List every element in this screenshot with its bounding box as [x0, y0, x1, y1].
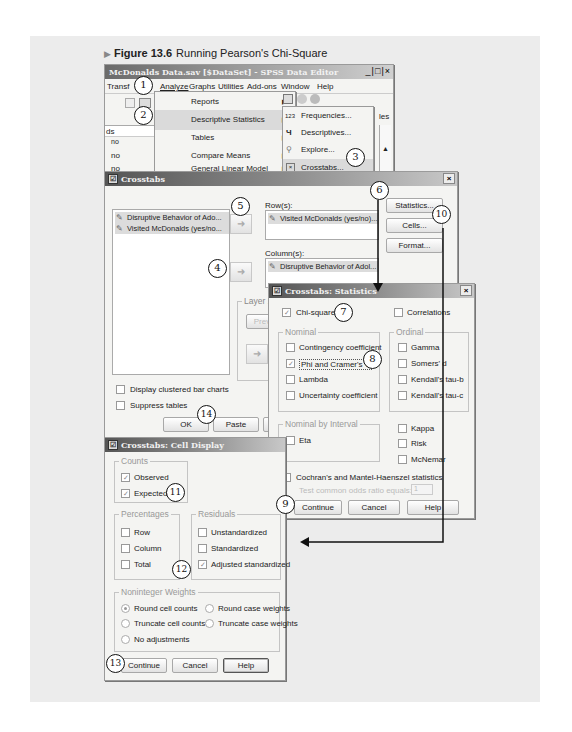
minimize-button[interactable]: _ [366, 66, 372, 76]
figure-label: Figure 13.6 [114, 47, 172, 59]
cell[interactable]: no [111, 151, 120, 160]
mcnemar-checkbox[interactable] [398, 455, 407, 464]
clustered-bar-charts-label: Display clustered bar charts [130, 385, 229, 394]
paste-button[interactable]: Paste [213, 417, 259, 432]
callout-5: 5 [231, 197, 250, 216]
row-percent-checkbox[interactable] [121, 528, 130, 537]
toolbar-icon-4[interactable] [297, 94, 307, 104]
gamma-checkbox[interactable] [398, 343, 407, 352]
uncertainty-coefficient-label: Uncertainty coefficient [299, 391, 378, 400]
test-odds-ratio-input[interactable]: 1 [411, 484, 433, 495]
continue-button[interactable]: Continue [121, 658, 167, 673]
menu-item-tables[interactable]: Tables▶ [155, 128, 295, 148]
columns-label: Column(s): [265, 249, 304, 258]
dialog-icon: ☑ [108, 174, 118, 184]
total-percent-label: Total [134, 560, 151, 569]
menu-addons[interactable]: Add-ons [247, 82, 277, 91]
risk-checkbox[interactable] [398, 439, 407, 448]
dialog-icon: ☑ [108, 440, 118, 450]
arrow-right-icon: ➜ [237, 266, 245, 277]
kendalls-tau-c-checkbox[interactable] [398, 391, 407, 400]
rows-list[interactable]: ✎Visited McDonalds (yes/no)... [265, 210, 379, 240]
statistics-dialog: ☑ Crosstabs: Statistics × ✓ Chi-square C… [268, 283, 475, 519]
callout-3: 3 [346, 148, 365, 167]
cancel-button[interactable]: Cancel [172, 658, 218, 673]
expected-checkbox[interactable]: ✓ [121, 489, 130, 498]
observed-checkbox[interactable]: ✓ [121, 473, 130, 482]
menu-transform[interactable]: Transf [107, 82, 129, 91]
cochran-mantel-haenszel-label: Cochran's and Mantel-Haenszel statistics [296, 473, 442, 482]
callout-14: 14 [197, 405, 216, 424]
format-button[interactable]: Format... [386, 238, 443, 253]
pencil-icon: ✎ [269, 214, 278, 223]
no-adjustments-radio[interactable] [121, 635, 130, 644]
menu-item-descriptives[interactable]: ЧDescriptives... [283, 125, 373, 141]
move-to-rows-button[interactable]: ➜ [230, 214, 252, 234]
list-item[interactable]: ✎Disruptive Behavior of Ado... [115, 212, 229, 223]
cell-display-dialog: ☑ Crosstabs: Cell Display Counts ✓ Obser… [104, 437, 286, 681]
figure-caption: ▶Figure 13.6Running Pearson's Chi-Square [104, 47, 327, 59]
round-cell-counts-radio[interactable] [121, 604, 130, 613]
clustered-bar-charts-checkbox[interactable] [116, 385, 125, 394]
menu-analyze[interactable]: Analyze [160, 82, 188, 91]
lambda-checkbox[interactable] [286, 375, 295, 384]
correlations-checkbox[interactable] [394, 308, 403, 317]
maximize-button[interactable]: □ [375, 66, 381, 76]
eta-checkbox[interactable] [286, 436, 295, 445]
figure-title: Running Pearson's Chi-Square [176, 47, 327, 59]
toolbar-icon-5[interactable] [310, 94, 320, 104]
adjusted-standardized-checkbox[interactable]: ✓ [198, 560, 207, 569]
caption-triangle-icon: ▶ [104, 49, 111, 59]
suppress-tables-label: Suppress tables [130, 401, 187, 410]
uncertainty-coefficient-checkbox[interactable] [286, 391, 295, 400]
chi-square-checkbox[interactable]: ✓ [282, 308, 291, 317]
adjusted-standardized-label: Adjusted standardized [211, 560, 290, 569]
menu-utilities[interactable]: Utilities [218, 82, 244, 91]
continue-button[interactable]: Continue [294, 500, 342, 515]
close-button[interactable]: × [385, 66, 391, 76]
callout-11: 11 [166, 483, 185, 502]
menu-graphs[interactable]: Graphs [189, 82, 215, 91]
truncate-cell-counts-radio[interactable] [121, 619, 130, 628]
move-to-columns-button[interactable]: ➜ [230, 262, 252, 282]
window-controls: _|□|× [366, 66, 391, 76]
menu-window[interactable]: Window [281, 82, 309, 91]
pencil-icon: ✎ [116, 213, 125, 222]
close-button[interactable]: × [460, 285, 472, 296]
cell-display-titlebar: ☑ Crosstabs: Cell Display [105, 438, 285, 452]
callout-12: 12 [172, 560, 191, 579]
list-item[interactable]: ✎Disruptive Behavior of Adol... [268, 261, 378, 272]
column-percent-checkbox[interactable] [121, 544, 130, 553]
kappa-checkbox[interactable] [398, 424, 407, 433]
somers-d-checkbox[interactable] [398, 359, 407, 368]
phi-cramers-v-checkbox[interactable]: ✓ [286, 359, 295, 368]
menu-item-frequencies[interactable]: 123Frequencies... [283, 108, 373, 124]
source-variable-list[interactable]: ✎Disruptive Behavior of Ado... ✎Visited … [112, 209, 230, 375]
menu-help[interactable]: Help [317, 82, 333, 91]
round-case-weights-radio[interactable] [205, 604, 214, 613]
help-button[interactable]: Help [407, 500, 459, 515]
toolbar-icon-3[interactable] [283, 94, 293, 104]
standardized-checkbox[interactable] [198, 544, 207, 553]
move-to-layer-button[interactable]: ➜ [246, 344, 268, 364]
truncate-case-weights-radio[interactable] [205, 619, 214, 628]
total-percent-checkbox[interactable] [121, 560, 130, 569]
risk-label: Risk [411, 439, 427, 448]
arrow-right-icon: ➜ [237, 218, 245, 229]
unstandardized-checkbox[interactable] [198, 528, 207, 537]
list-item[interactable]: ✎Visited McDonalds (yes/no)... [268, 213, 378, 224]
close-button[interactable]: × [443, 173, 455, 184]
help-button[interactable]: Help [223, 658, 269, 673]
toolbar-icon-1[interactable] [125, 98, 135, 108]
kendalls-tau-b-checkbox[interactable] [398, 375, 407, 384]
suppress-tables-checkbox[interactable] [116, 401, 125, 410]
list-item[interactable]: ✎Visited McDonalds (yes/no... [115, 223, 229, 234]
cell[interactable]: no [111, 138, 119, 145]
contingency-coefficient-checkbox[interactable] [286, 343, 295, 352]
menu-item-descriptive-statistics[interactable]: Descriptive Statistics▶ [155, 110, 295, 130]
callout-6: 6 [370, 181, 389, 200]
dialog-icon: ☑ [272, 286, 282, 296]
scroll-up-icon[interactable]: ▲ [382, 145, 389, 152]
cancel-button[interactable]: Cancel [348, 500, 400, 515]
menu-item-reports[interactable]: Reports▶ [155, 92, 295, 112]
